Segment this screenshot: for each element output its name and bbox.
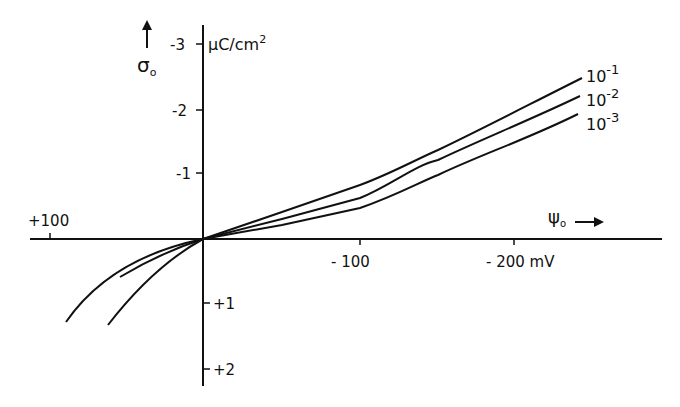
y-unit-label: μC/cm2 bbox=[208, 33, 266, 54]
arrow-up-icon bbox=[142, 20, 152, 30]
curve-label-10e-3: 10-3 bbox=[586, 110, 619, 134]
curve-10e-3 bbox=[108, 114, 578, 325]
y-tick-label-p2: +2 bbox=[213, 361, 235, 379]
x-axis-symbol: ψo bbox=[548, 206, 566, 229]
x-tick-label-m200: - 200 mV bbox=[486, 253, 555, 271]
y-tick-label-m1: -1 bbox=[176, 165, 191, 183]
chart-canvas: +100 - 100 - 200 mV -3 -2 -1 +1 +2 μC/cm… bbox=[0, 0, 680, 407]
x-axis-title: ψo bbox=[548, 206, 604, 229]
y-tick-label-m2: -2 bbox=[172, 102, 187, 120]
y-tick-label-m3: -3 bbox=[170, 36, 185, 54]
y-tick-label-p1: +1 bbox=[213, 295, 235, 313]
x-tick-label-m100: - 100 bbox=[331, 253, 370, 271]
x-tick-label-p100: +100 bbox=[28, 212, 69, 230]
curve-10e-2 bbox=[120, 96, 580, 277]
curve-label-10e-2: 10-2 bbox=[586, 86, 619, 110]
arrow-right-icon bbox=[594, 217, 604, 227]
curve-label-10e-1: 10-1 bbox=[586, 62, 619, 86]
y-axis-title: σo bbox=[137, 20, 157, 79]
y-axis-symbol: σo bbox=[137, 53, 157, 79]
